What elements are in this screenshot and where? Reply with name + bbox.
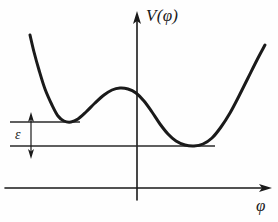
x-axis-label: φ xyxy=(256,196,265,216)
potential-plot-figure: V(φ) φ ε xyxy=(0,0,278,222)
plot-canvas xyxy=(0,0,278,222)
potential-curve xyxy=(30,35,265,146)
epsilon-label: ε xyxy=(15,127,21,143)
y-axis-label: V(φ) xyxy=(146,6,178,26)
